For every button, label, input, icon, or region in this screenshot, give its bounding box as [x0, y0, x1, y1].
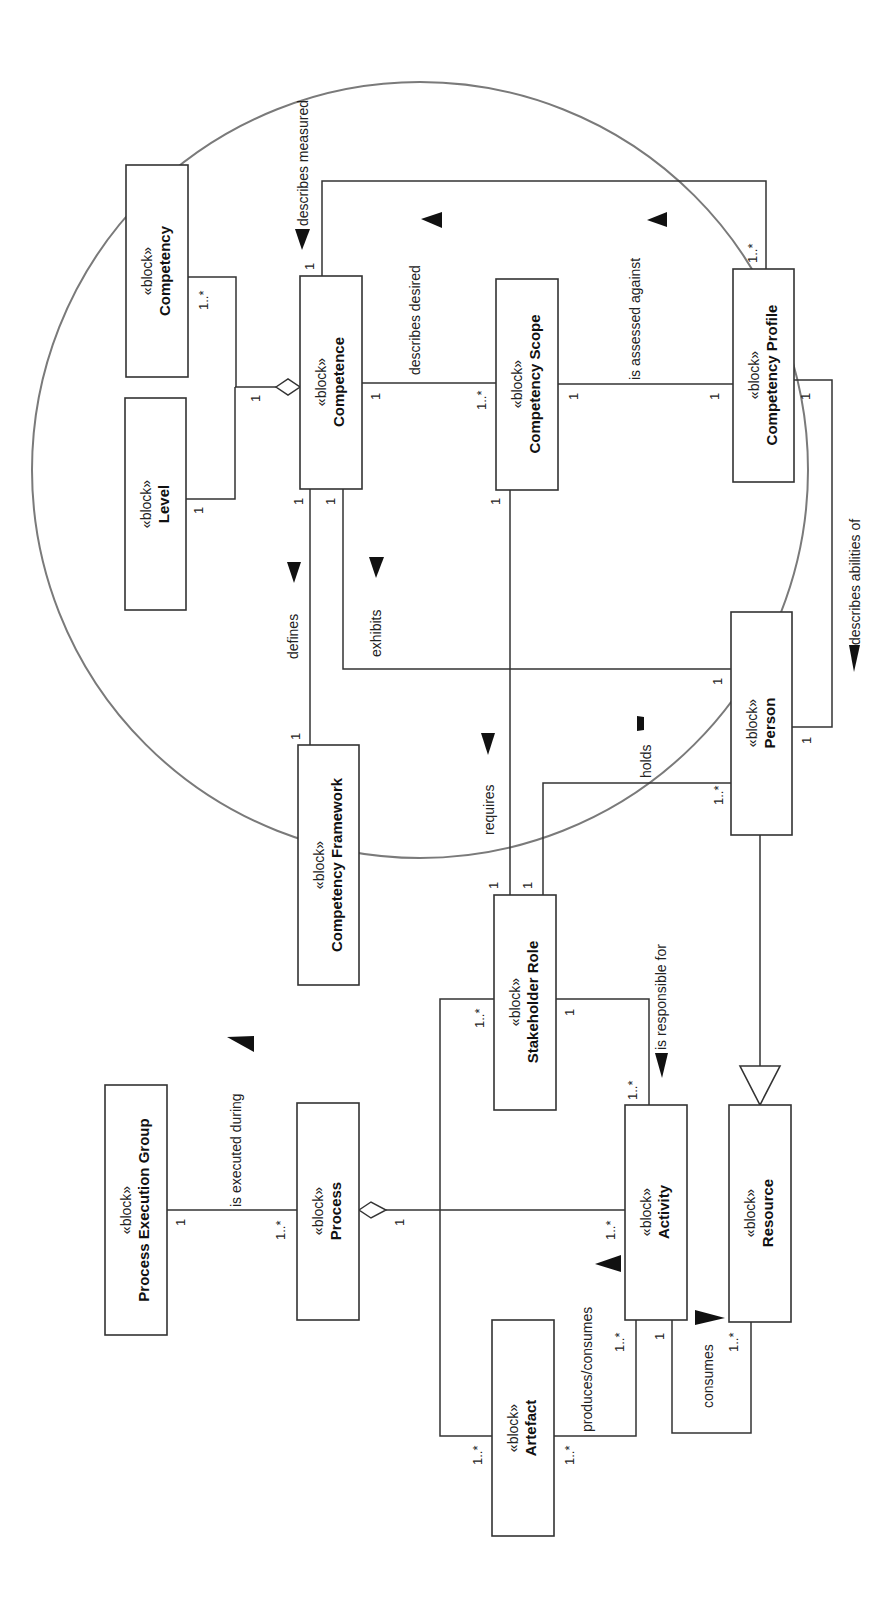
block-name: Competence: [330, 337, 347, 427]
label-is-assessed-against: is assessed against: [627, 258, 643, 380]
label-describes-desired: describes desired: [407, 265, 423, 375]
mult-process-aggregation: 1: [392, 1219, 407, 1226]
aggregation-diamond-process: [359, 1202, 386, 1218]
arrow-requires-icon: [481, 733, 495, 755]
label-consumes: consumes: [700, 1344, 716, 1408]
block-name: Activity: [655, 1184, 672, 1239]
label-requires: requires: [481, 784, 497, 835]
block-resource[interactable]: «block» Resource: [729, 1105, 791, 1322]
mult-scope-desired: 1..*: [474, 390, 489, 410]
mult-artefact-produces: 1..*: [562, 1445, 577, 1465]
block-stereotype: «block»: [138, 480, 154, 528]
line-exhibits: [343, 489, 731, 669]
line-level-aggregation: [186, 387, 235, 499]
block-definition-diagram: «block» Competency «block» Level «block»…: [0, 0, 879, 1610]
block-activity[interactable]: «block» Activity: [625, 1105, 687, 1320]
block-name: Person: [761, 698, 778, 749]
mult-scope-assessed: 1: [566, 393, 581, 400]
block-name: Competency: [156, 225, 173, 316]
mult-competence-exhibits: 1: [323, 498, 338, 505]
label-produces-consumes: produces/consumes: [579, 1307, 595, 1432]
block-person[interactable]: «block» Person: [731, 612, 792, 835]
line-holds: [543, 783, 731, 895]
mult-profile-assessed: 1: [707, 393, 722, 400]
block-name: Resource: [759, 1179, 776, 1247]
block-stereotype: «block»: [313, 358, 329, 406]
arrow-describes-measured-icon: [295, 229, 310, 250]
mult-competence-measured: 1: [302, 263, 317, 270]
line-describes-measured: [322, 181, 766, 276]
block-stereotype: «block»: [310, 1187, 326, 1235]
mult-person-holds: 1..*: [711, 785, 726, 805]
mult-competence-desired: 1: [368, 393, 383, 400]
mult-framework-defines: 1: [288, 733, 303, 740]
block-competency[interactable]: «block» Competency: [126, 165, 188, 377]
mult-competence-defines: 1: [291, 498, 306, 505]
arrow-is-assessed-against-icon: [647, 212, 667, 227]
line-role-artefact: [440, 999, 494, 1436]
arrow-is-executed-during-icon: [227, 1036, 254, 1052]
block-competency-profile[interactable]: «block» Competency Profile: [733, 269, 794, 482]
aggregation-diamond-competence: [276, 379, 300, 395]
mult-person-abilities: 1: [799, 737, 814, 744]
block-stereotype: «block»: [638, 1188, 654, 1236]
mult-profile-abilities: 1: [798, 393, 813, 400]
block-competency-scope[interactable]: «block» Competency Scope: [496, 279, 558, 490]
mult-activity-produces: 1..*: [612, 1332, 627, 1352]
mult-activity-aggregation: 1..*: [603, 1220, 618, 1240]
block-stereotype: «block»: [744, 699, 760, 747]
mult-scope-requires: 1: [488, 498, 503, 505]
mult-process-executed: 1..*: [273, 1220, 288, 1240]
block-stereotype: «block»: [742, 1189, 758, 1237]
mult-activity-responsible: 1..*: [625, 1080, 640, 1100]
arrow-describes-abilities-of-icon: [849, 645, 860, 672]
block-stereotype: «block»: [507, 978, 523, 1026]
arrow-is-responsible-for-icon: [655, 1053, 668, 1078]
block-name: Competency Scope: [526, 314, 543, 453]
mult-profile-measured: 1..*: [745, 243, 760, 263]
block-competency-framework[interactable]: «block» Competency Framework: [298, 745, 359, 985]
block-artefact[interactable]: «block» Artefact: [492, 1320, 554, 1536]
label-is-executed-during: is executed during: [228, 1093, 244, 1207]
mult-artefact-role: 1..*: [470, 1445, 485, 1465]
block-process[interactable]: «block» Process: [297, 1103, 359, 1320]
label-is-responsible-for: is responsible for: [653, 944, 669, 1050]
mult-resource-consumes: 1..*: [726, 1332, 741, 1352]
label-describes-abilities-of: describes abilities of: [847, 519, 863, 645]
generalization-triangle: [740, 1066, 780, 1105]
mult-role-artefact: 1..*: [472, 1008, 487, 1028]
block-stereotype: «block»: [746, 351, 762, 399]
block-name: Artefact: [522, 1400, 539, 1457]
block-stereotype: «block»: [118, 1186, 134, 1234]
arrow-produces-consumes-icon: [595, 1255, 621, 1272]
block-name: Competency Framework: [328, 777, 345, 952]
block-name: Process: [327, 1182, 344, 1240]
mult-role-responsible: 1: [562, 1009, 577, 1016]
mult-role-holds: 1: [520, 882, 535, 889]
mult-activity-consumes: 1: [652, 1333, 667, 1340]
arrow-defines-icon: [287, 562, 301, 583]
label-defines: defines: [285, 614, 301, 659]
block-name: Competency Profile: [763, 305, 780, 446]
arrow-consumes-icon: [695, 1310, 725, 1325]
mult-level: 1: [191, 507, 206, 514]
arrow-describes-desired-icon: [421, 212, 442, 228]
block-stereotype: «block»: [311, 841, 327, 889]
mult-person-exhibits: 1: [710, 678, 725, 685]
block-name: Level: [155, 485, 172, 523]
block-stakeholder-role[interactable]: «block» Stakeholder Role: [494, 895, 556, 1110]
label-exhibits: exhibits: [368, 610, 384, 657]
mult-peg-executed: 1: [173, 1219, 188, 1226]
label-holds: holds: [638, 745, 654, 778]
block-level[interactable]: «block» Level: [125, 398, 186, 610]
block-competence[interactable]: «block» Competence: [300, 276, 362, 489]
block-stereotype: «block»: [139, 247, 155, 295]
mult-competence-aggregation: 1: [248, 395, 263, 402]
arrow-exhibits-icon: [369, 557, 384, 578]
block-name: Process Execution Group: [135, 1118, 152, 1301]
block-process-execution-group[interactable]: «block» Process Execution Group: [105, 1085, 167, 1335]
block-stereotype: «block»: [505, 1404, 521, 1452]
arrow-holds-icon: [637, 716, 644, 731]
mult-competency: 1..*: [196, 290, 211, 310]
block-name: Stakeholder Role: [524, 941, 541, 1064]
